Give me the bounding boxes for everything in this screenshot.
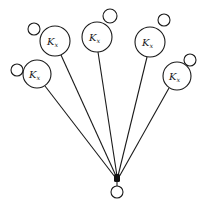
- self-loop-circle: [158, 14, 170, 26]
- self-loop-circle: [184, 54, 196, 66]
- node-right: Kx: [163, 54, 196, 90]
- edges: [45, 52, 169, 177]
- self-loop-circle: [11, 64, 23, 76]
- hub-node: [114, 174, 120, 182]
- self-loop-circle: [28, 23, 40, 35]
- self-loop-circle: [103, 9, 117, 23]
- edge-right: [119, 88, 169, 177]
- edge-left: [45, 86, 115, 177]
- edge-top-right: [118, 57, 147, 176]
- node-left: Kx: [11, 60, 51, 88]
- root-node: [111, 186, 123, 198]
- node-top-right: Kx: [135, 14, 170, 57]
- node-top-center: Kx: [82, 9, 117, 52]
- node-upper-left: Kx: [28, 23, 70, 56]
- star-graph-diagram: Kx Kx Kx Kx Kx: [0, 0, 210, 206]
